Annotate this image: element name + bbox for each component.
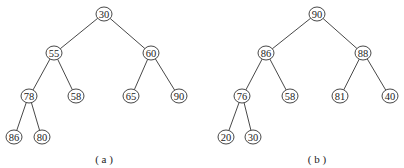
tree-node: 30 [245, 130, 261, 144]
tree-node: 58 [282, 89, 298, 103]
tree-edge [58, 59, 73, 90]
tree-node: 30 [96, 7, 112, 21]
nodes-layer: 305560785865908680908688765881402030 [6, 7, 398, 144]
node-label: 76 [237, 91, 248, 102]
tree-node: 78 [21, 89, 37, 103]
tree-edge [31, 103, 39, 131]
tree-edge [367, 59, 385, 90]
tree-node: 88 [355, 46, 371, 60]
tree-node: 81 [332, 89, 348, 103]
tree-node: 90 [309, 7, 325, 21]
node-label: 58 [285, 91, 296, 102]
node-label: 60 [146, 48, 157, 59]
tree-node: 60 [143, 46, 159, 60]
tree-edge [134, 59, 147, 89]
node-label: 40 [385, 91, 396, 102]
node-label: 86 [261, 48, 272, 59]
tree-node: 58 [68, 89, 84, 103]
captions-layer: ( a )( b ) [95, 153, 326, 166]
tree-node: 20 [218, 130, 234, 144]
edges-layer [17, 18, 386, 130]
tree-node: 86 [258, 46, 274, 60]
tree-edge [272, 18, 310, 48]
node-label: 30 [248, 132, 259, 143]
tree-edge [60, 18, 97, 48]
node-label: 81 [335, 91, 346, 102]
node-label: 78 [24, 91, 35, 102]
node-label: 80 [37, 132, 48, 143]
tree-edge [17, 103, 27, 131]
tree-edge [270, 59, 286, 90]
node-label: 88 [358, 48, 369, 59]
node-label: 86 [9, 132, 20, 143]
tree-edge [323, 19, 357, 49]
tree-node: 86 [6, 130, 22, 144]
tree-node: 65 [123, 89, 139, 103]
node-label: 90 [312, 9, 323, 20]
tree-edge [33, 59, 50, 90]
tree-node: 40 [382, 89, 398, 103]
tree-caption: ( a ) [95, 153, 113, 166]
node-label: 20 [221, 132, 232, 143]
node-label: 90 [174, 91, 185, 102]
node-label: 65 [126, 91, 137, 102]
binary-tree-diagram: 305560785865908680908688765881402030 ( a… [0, 0, 404, 168]
tree-node: 90 [171, 89, 187, 103]
tree-edge [229, 103, 239, 131]
tree-node: 76 [234, 89, 250, 103]
node-label: 55 [49, 48, 60, 59]
tree-caption: ( b ) [308, 153, 327, 166]
tree-edge [110, 18, 145, 48]
tree-edge [344, 59, 359, 90]
tree-node: 80 [34, 130, 50, 144]
node-label: 58 [71, 91, 82, 102]
tree-edge [155, 59, 174, 90]
tree-node: 55 [46, 46, 62, 60]
node-label: 30 [99, 9, 110, 20]
tree-edge [246, 59, 262, 90]
tree-edge [244, 103, 251, 130]
